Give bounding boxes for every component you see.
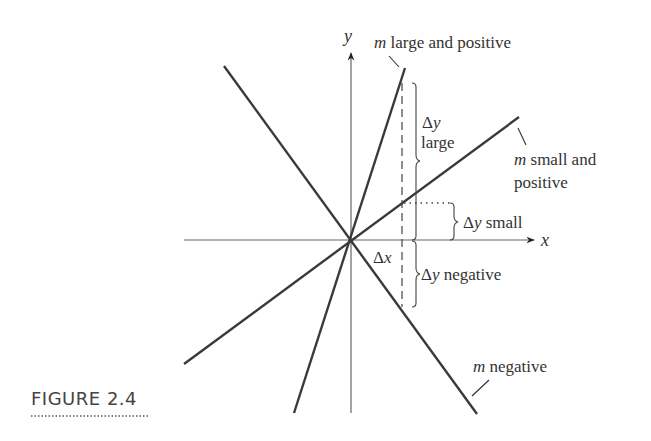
label-delta-y-small: Δy small — [463, 213, 523, 232]
x-axis-label: x — [540, 230, 549, 250]
leader-m-small — [518, 128, 526, 145]
label-delta-y-negative: Δy negative — [421, 265, 501, 284]
label-delta-y-large: Δy — [422, 113, 441, 132]
label-m-small-positive-line1: m small and — [514, 150, 597, 169]
label-m-small-positive-line2: positive — [514, 173, 568, 192]
brace-dy-large — [412, 83, 420, 240]
label-delta-x: Δx — [373, 248, 392, 267]
y-axis-label: y — [342, 26, 352, 46]
brace-dy-negative — [412, 241, 420, 307]
brace-dy-small — [450, 203, 458, 240]
figure-caption: FIGURE 2.4 — [31, 388, 137, 409]
slope-diagram: x y m large and positive m small and pos… — [0, 0, 651, 441]
label-large: large — [421, 133, 455, 152]
leader-m-large — [389, 56, 399, 67]
leader-m-negative — [472, 380, 489, 396]
label-m-negative: m negative — [473, 357, 547, 376]
label-m-large-positive: m large and positive — [374, 33, 511, 52]
